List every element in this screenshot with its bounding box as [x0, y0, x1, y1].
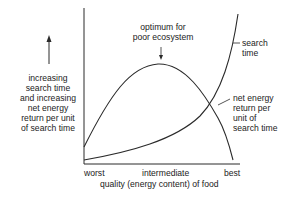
- y-label-line: return per unit: [4, 113, 92, 123]
- x-tick-best: best: [224, 168, 240, 178]
- x-tick-intermediate: intermediate: [142, 168, 189, 178]
- annotation-line: optimum for: [118, 22, 208, 32]
- down-arrow-head-icon: [159, 55, 163, 60]
- net-energy-curve: [84, 64, 233, 160]
- annotation-line: poor ecosystem: [118, 32, 208, 42]
- curve-label-line: search time: [233, 123, 277, 133]
- x-axis-label: quality (energy content) of food: [100, 179, 218, 189]
- optimum-annotation: optimum for poor ecosystem: [118, 22, 208, 42]
- curve-label-line: net energy: [233, 93, 277, 103]
- y-axis-label: increasing search time and increasing ne…: [4, 73, 92, 133]
- y-label-line: increasing: [4, 73, 92, 83]
- net-energy-leader: [218, 99, 230, 105]
- y-label-line: of search time: [4, 123, 92, 133]
- x-tick-worst: worst: [84, 168, 105, 178]
- curve-label-line: return per: [233, 103, 277, 113]
- net-energy-label: net energy return per unit of search tim…: [233, 93, 277, 133]
- y-label-line: and increasing: [4, 93, 92, 103]
- search-time-label: search time: [242, 38, 268, 58]
- curve-label-line: time: [242, 48, 268, 58]
- curve-label-line: search: [242, 38, 268, 48]
- up-arrow-head-icon: [47, 35, 52, 42]
- curve-label-line: unit of: [233, 113, 277, 123]
- y-label-line: net energy: [4, 103, 92, 113]
- y-label-line: search time: [4, 83, 92, 93]
